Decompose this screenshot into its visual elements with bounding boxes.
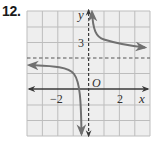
x-tick-label-2: 2 — [117, 92, 123, 106]
y-axis-label: y — [76, 7, 84, 22]
x-tick-label-neg2: −2 — [50, 92, 63, 106]
y-tick-label-3: 3 — [78, 36, 84, 50]
x-axis-label: x — [138, 91, 145, 106]
origin-label: O — [92, 76, 101, 90]
rational-function-graph: y 3 O −2 2 x — [0, 0, 159, 148]
